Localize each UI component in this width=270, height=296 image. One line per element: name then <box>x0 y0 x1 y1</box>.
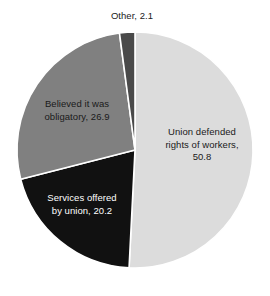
pie-slice-group <box>17 32 253 268</box>
pie-slice <box>129 32 253 268</box>
pie-chart-canvas <box>0 0 270 296</box>
pie-chart: Other, 2.1 Union defended rights of work… <box>0 0 270 296</box>
